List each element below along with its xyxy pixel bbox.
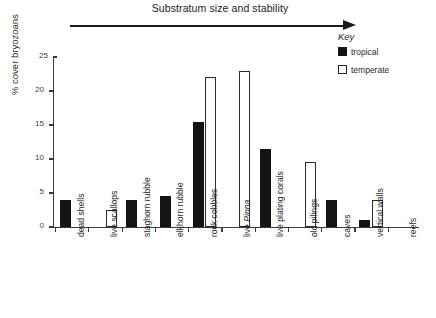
y-axis-tick: 20 [49, 90, 53, 91]
bar-tropical-8 [326, 200, 337, 227]
bar-tropical-0 [60, 200, 71, 227]
y-axis-tick: 5 [49, 192, 53, 193]
substratum-axis-caption: Substratum size and stability [70, 2, 370, 14]
bar-tropical-3 [160, 196, 171, 227]
x-axis-category-label: dead shells [76, 194, 86, 237]
right-arrow-icon [70, 25, 345, 27]
y-axis-tick-label: 5 [40, 187, 44, 196]
x-axis-category-label: old pilings [309, 199, 319, 237]
x-axis-tick [388, 228, 389, 232]
bar-tropical-6 [260, 149, 271, 227]
y-axis-title: % cover bryozoans [9, 0, 20, 95]
y-axis-line [53, 57, 54, 227]
x-axis-category-label: staghorn rubble [142, 177, 152, 237]
x-axis-tick [88, 228, 89, 232]
y-axis-tick: 15 [49, 124, 53, 125]
x-axis-tick [288, 228, 289, 232]
bar-tropical-9 [359, 220, 370, 227]
x-axis-category-label: live scallops [109, 191, 119, 237]
x-axis-tick [321, 228, 322, 232]
x-axis-tick [122, 228, 123, 232]
y-axis-tick: 0 [49, 226, 53, 227]
x-axis-tick [221, 228, 222, 232]
x-axis-category-label: vertical walls [375, 188, 385, 237]
x-axis-category-label: caves [342, 215, 352, 237]
x-axis-line [53, 227, 419, 228]
x-axis-category-label: rock cobbles [209, 189, 219, 237]
y-axis-tick-label: 0 [40, 221, 44, 230]
right-arrow-head-icon [343, 20, 356, 30]
bar-tropical-2 [126, 200, 137, 227]
legend-label-tropical: tropical [351, 47, 378, 57]
x-axis-tick [354, 228, 355, 232]
x-axis-category-label: reefs [408, 218, 418, 237]
x-axis-tick [188, 228, 189, 232]
y-axis-tick-label: 15 [35, 119, 44, 128]
x-axis-tick [55, 228, 56, 232]
bar-tropical-4 [193, 122, 204, 227]
figure-bryozoan-cover-chart: Substratum size and stability Key tropic… [0, 0, 436, 318]
x-axis-tick [255, 228, 256, 232]
x-axis-category-label: live Pinna [242, 200, 252, 237]
x-axis-category-label: elkhorn rubble [175, 183, 185, 237]
y-axis-tick: 25 [53, 56, 57, 57]
filled-square-icon [338, 47, 347, 56]
legend-title: Key [338, 31, 434, 42]
plot-area: % cover bryozoans 0510152025 dead shells… [53, 57, 419, 227]
y-axis-tick-label: 10 [35, 153, 44, 162]
x-axis-category-label: live plating corals [275, 171, 285, 237]
y-axis-tick-label: 25 [39, 51, 48, 60]
x-axis-tick [155, 228, 156, 232]
y-axis-tick: 10 [49, 158, 53, 159]
y-axis-tick-label: 20 [35, 85, 44, 94]
